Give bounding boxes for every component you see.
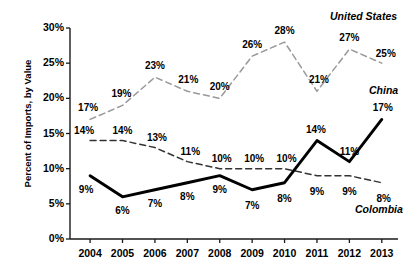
data-label: 14% — [300, 124, 332, 135]
data-label: 14% — [107, 125, 139, 136]
data-label: 6% — [107, 205, 139, 216]
data-label: 13% — [141, 132, 173, 143]
y-tick-label: 5% — [18, 197, 64, 209]
data-label: 19% — [106, 88, 138, 99]
data-label: 9% — [70, 184, 102, 195]
data-label: 17% — [367, 102, 399, 113]
line-chart: Percent of Imports, by Value 0%5%10%15%2… — [0, 0, 417, 269]
data-label: 7% — [139, 198, 171, 209]
data-label: 28% — [269, 25, 301, 36]
data-label: 8% — [269, 193, 301, 204]
y-tick-label: 20% — [18, 91, 64, 103]
data-label: 21% — [303, 74, 335, 85]
data-label: 21% — [172, 74, 204, 85]
data-label: 27% — [333, 32, 365, 43]
x-tick-label: 2013 — [362, 247, 402, 259]
y-tick-label: 30% — [18, 21, 64, 33]
y-tick-label: 25% — [18, 56, 64, 68]
series-label-colombia: Colombia — [355, 203, 403, 215]
y-tick-label: 15% — [18, 127, 64, 139]
data-label: 11% — [333, 146, 365, 157]
data-label: 9% — [301, 186, 333, 197]
series-label-china: China — [369, 84, 398, 96]
data-label: 10% — [238, 153, 270, 164]
data-label: 7% — [236, 200, 268, 211]
data-label: 10% — [271, 153, 303, 164]
data-label: 9% — [204, 184, 236, 195]
y-tick-label: 0% — [18, 232, 64, 244]
data-label: 10% — [206, 153, 238, 164]
data-label: 25% — [370, 48, 402, 59]
data-label: 23% — [139, 60, 171, 71]
data-label: 17% — [72, 102, 104, 113]
data-label: 9% — [333, 186, 365, 197]
data-label: 26% — [236, 39, 268, 50]
data-label: 20% — [204, 81, 236, 92]
data-label: 14% — [68, 125, 100, 136]
data-label: 8% — [171, 191, 203, 202]
series-label-united-states: United States — [330, 10, 397, 22]
data-label: 11% — [174, 146, 206, 157]
y-tick-label: 10% — [18, 162, 64, 174]
